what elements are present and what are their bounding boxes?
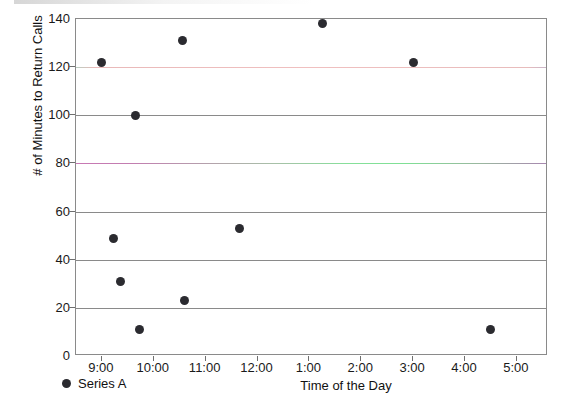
x-axis-tick-mark <box>205 356 206 361</box>
x-axis-tick-label: 10:00 <box>137 360 170 375</box>
data-point <box>131 111 140 120</box>
x-axis-tick-mark <box>308 356 309 361</box>
x-axis-tick-label: 2:00 <box>348 360 373 375</box>
x-axis-tick-label: 4:00 <box>451 360 476 375</box>
x-axis-tick-label: 5:00 <box>503 360 528 375</box>
reference-line-120 <box>76 67 546 68</box>
x-axis-tick-label: 11:00 <box>189 360 221 375</box>
x-axis-tick-label: 12:00 <box>240 360 273 375</box>
x-axis-tick-mark <box>257 356 258 361</box>
y-axis-title: # of Minutes to Return Calls <box>30 0 45 211</box>
x-axis-tick-label: 1:00 <box>296 360 321 375</box>
data-point <box>486 325 495 334</box>
scatter-chart: # of Minutes to Return Calls Time of the… <box>0 0 578 412</box>
x-axis-tick-mark <box>464 356 465 361</box>
data-point <box>409 58 418 67</box>
data-point <box>235 224 244 233</box>
data-point <box>180 296 189 305</box>
reference-line-80 <box>76 163 546 164</box>
legend: Series A <box>62 376 126 391</box>
x-axis-tick-mark <box>412 356 413 361</box>
y-axis-tick-label: 140 <box>0 11 70 26</box>
data-point <box>109 234 118 243</box>
y-axis-tick-label: 60 <box>0 203 70 218</box>
gridline <box>76 115 546 116</box>
x-axis-tick-mark <box>516 356 517 361</box>
legend-item-label: Series A <box>78 376 126 391</box>
data-point <box>97 58 106 67</box>
data-point <box>318 19 327 28</box>
y-axis-tick-label: 80 <box>0 155 70 170</box>
scan-artifact <box>14 0 314 4</box>
x-axis-tick-mark <box>153 356 154 361</box>
data-point <box>135 325 144 334</box>
x-axis-tick-mark <box>101 356 102 361</box>
x-axis-tick-label: 9:00 <box>88 360 113 375</box>
plot-area <box>75 18 547 355</box>
x-axis-title: Time of the Day <box>196 378 496 393</box>
gridline <box>76 260 546 261</box>
data-point <box>116 277 125 286</box>
y-axis-tick-label: 40 <box>0 251 70 266</box>
y-axis-tick-label: 20 <box>0 299 70 314</box>
legend-marker-icon <box>62 379 71 388</box>
y-axis-tick-label: 0 <box>0 348 70 363</box>
gridline <box>76 308 546 309</box>
data-point <box>178 36 187 45</box>
y-axis-tick-label: 120 <box>0 59 70 74</box>
x-axis-tick-mark <box>360 356 361 361</box>
x-axis-tick-label: 3:00 <box>399 360 424 375</box>
gridline <box>76 212 546 213</box>
y-axis-tick-label: 100 <box>0 107 70 122</box>
